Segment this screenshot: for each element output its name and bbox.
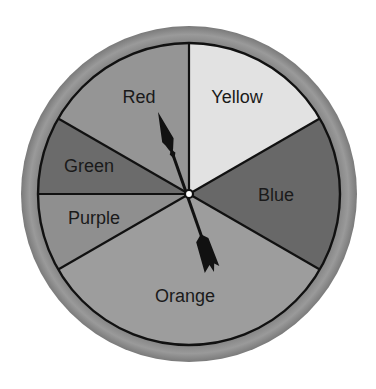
sector-label-green: Green xyxy=(64,156,114,176)
sector-label-red: Red xyxy=(122,87,155,107)
spinner-diagram: YellowBlueOrangePurpleGreenRed xyxy=(0,0,376,389)
spinner-hub-pivot xyxy=(185,190,193,198)
sector-label-orange: Orange xyxy=(155,286,215,306)
sector-label-purple: Purple xyxy=(68,208,120,228)
sector-label-blue: Blue xyxy=(258,185,294,205)
sector-label-yellow: Yellow xyxy=(211,87,263,107)
